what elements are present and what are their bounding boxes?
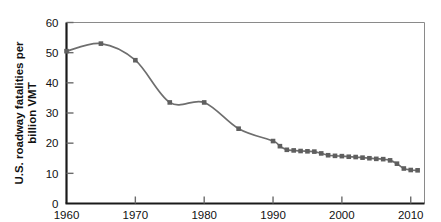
data-point-markers [64, 41, 420, 172]
y-axis-tick-label: 60 [46, 17, 59, 29]
y-axis-title-line-1: U.S. roadway fatalities per [13, 41, 25, 185]
y-axis-tick-label: 30 [46, 107, 59, 119]
data-point-marker [340, 154, 345, 159]
data-point-marker [278, 144, 283, 149]
data-point-marker [319, 151, 324, 156]
data-point-marker [353, 155, 358, 160]
data-point-marker [64, 49, 69, 54]
data-line [67, 43, 418, 170]
line-chart: 0102030405060196019701980199020002010U.S… [0, 0, 441, 222]
data-point-marker [298, 149, 303, 154]
data-point-marker [202, 100, 207, 105]
y-axis-tick-label: 40 [46, 77, 59, 89]
y-axis-title-line-2: billion VMT [26, 82, 38, 143]
data-point-marker [291, 148, 296, 153]
data-point-marker [367, 156, 372, 161]
x-axis-tick-label: 1990 [260, 209, 286, 221]
data-point-marker [381, 157, 386, 162]
data-point-marker [312, 149, 317, 154]
data-point-marker [388, 158, 393, 163]
data-point-marker [395, 161, 400, 166]
chart-container: 0102030405060196019701980199020002010U.S… [0, 0, 441, 222]
data-point-marker [415, 168, 420, 173]
data-point-marker [402, 166, 407, 171]
data-point-marker [333, 154, 338, 159]
data-point-marker [285, 148, 290, 153]
data-point-marker [99, 41, 104, 46]
x-axis-tick-label: 1960 [54, 209, 80, 221]
x-axis-tick-label: 1970 [123, 209, 149, 221]
x-axis-tick-label: 2010 [398, 209, 424, 221]
data-point-marker [408, 168, 413, 173]
x-axis-tick-label: 2000 [329, 209, 355, 221]
data-point-marker [236, 126, 241, 131]
data-point-marker [133, 58, 138, 63]
data-point-marker [271, 139, 276, 144]
x-axis-tick-label: 1980 [191, 209, 217, 221]
data-point-marker [305, 149, 310, 154]
data-point-marker [360, 155, 365, 160]
y-axis-title: U.S. roadway fatalities perbillion VMT [13, 41, 38, 185]
y-axis-tick-label: 20 [46, 137, 59, 149]
y-axis-tick-label: 10 [46, 168, 59, 180]
data-point-marker [346, 154, 351, 159]
data-point-marker [167, 100, 172, 105]
data-point-marker [374, 157, 379, 162]
data-point-marker [326, 153, 331, 158]
y-axis-tick-label: 50 [46, 47, 59, 59]
